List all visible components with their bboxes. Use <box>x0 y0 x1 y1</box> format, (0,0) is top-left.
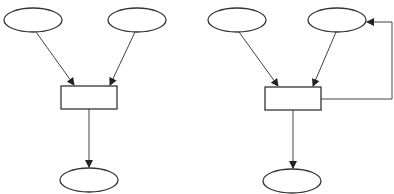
process-node <box>265 87 321 110</box>
input-node-b <box>308 8 366 32</box>
right-diagram <box>208 8 392 193</box>
edge-input-b-to-process <box>313 32 336 86</box>
left-diagram <box>4 8 166 192</box>
input-node-a <box>208 8 266 32</box>
edge-input-b-to-process <box>110 32 135 85</box>
output-node <box>263 169 321 193</box>
diagram-canvas <box>0 0 394 194</box>
feedback-edge-process-to-input-b <box>321 22 392 99</box>
input-node-b <box>108 8 166 32</box>
input-node-a <box>4 8 62 32</box>
edge-input-a-to-process <box>239 32 278 86</box>
process-node <box>61 86 117 109</box>
edge-input-a-to-process <box>36 32 74 85</box>
output-node <box>60 168 118 192</box>
